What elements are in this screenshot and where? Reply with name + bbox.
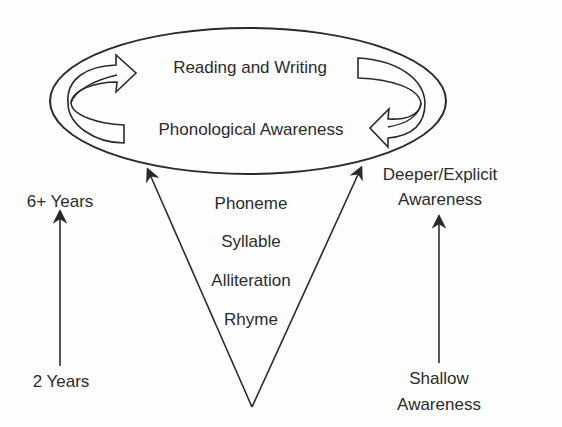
left-arrow-fold-line [71,75,117,103]
age-top-label: 6+ Years [27,192,94,211]
deeper-awareness-label-line1: Deeper/Explicit [383,165,498,184]
age-bottom-label: 2 Years [33,372,90,391]
level-rhyme: Rhyme [224,310,278,329]
deeper-awareness-label-line2: Awareness [398,190,482,209]
level-phoneme: Phoneme [215,194,288,213]
level-syllable: Syllable [221,232,281,251]
shallow-awareness-label-line1: Shallow [409,369,469,388]
phonological-awareness-label: Phonological Awareness [159,120,344,139]
level-alliteration: Alliteration [211,271,290,290]
reading-writing-label: Reading and Writing [173,58,327,77]
right-arrow-fold-line [388,103,421,127]
shallow-awareness-label-line2: Awareness [397,395,481,414]
right-curved-arrow-icon [358,58,425,147]
phonological-awareness-diagram: Reading and Writing Phonological Awarene… [0,0,562,427]
left-curved-arrow-icon [68,55,136,143]
outer-ellipse [50,28,446,174]
